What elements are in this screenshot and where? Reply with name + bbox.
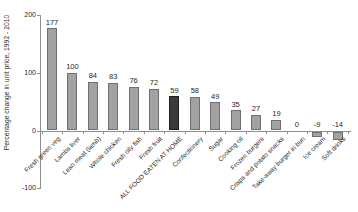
- bar: [47, 28, 57, 130]
- bar: [210, 102, 220, 130]
- bar: [169, 96, 179, 130]
- x-axis-tick: [164, 132, 165, 134]
- x-axis-tick: [144, 132, 145, 134]
- x-axis-tick: [287, 132, 288, 134]
- bar: [108, 83, 118, 131]
- x-axis-line: [40, 131, 351, 132]
- x-axis-tick: [123, 132, 124, 134]
- bar: [251, 115, 261, 131]
- y-axis-tick: [37, 73, 40, 74]
- y-axis-title: Percentage change in unit price, 1992 - …: [2, 0, 11, 173]
- x-axis-tick: [62, 132, 63, 134]
- y-axis-line: [40, 15, 41, 189]
- category-label: Fresh green veg: [23, 135, 61, 173]
- x-axis-tick: [307, 132, 308, 134]
- bar-chart: Percentage change in unit price, 1992 - …: [0, 0, 358, 212]
- bar: [231, 110, 241, 130]
- y-axis-tick: [37, 188, 40, 189]
- x-axis-tick: [266, 132, 267, 134]
- y-axis-tick: [37, 131, 40, 132]
- y-tick-label: 100: [5, 69, 36, 77]
- category-label: Sugar: [207, 135, 224, 152]
- bar: [129, 87, 139, 131]
- y-tick-label: 200: [5, 11, 36, 19]
- y-tick-label: -100: [5, 184, 36, 192]
- bar: [271, 120, 281, 131]
- bar: [67, 73, 77, 131]
- bar-value-label: -14: [323, 120, 353, 129]
- bar: [88, 82, 98, 131]
- x-axis-tick: [103, 132, 104, 134]
- y-axis-tick: [37, 15, 40, 16]
- x-axis-tick: [42, 132, 43, 134]
- bar-value-label: 100: [57, 62, 87, 71]
- x-axis-tick: [83, 132, 84, 134]
- x-axis-tick: [225, 132, 226, 134]
- bar: [149, 89, 159, 131]
- bar: [190, 97, 200, 131]
- x-axis-tick: [348, 132, 349, 134]
- x-axis-tick: [185, 132, 186, 134]
- x-axis-tick: [205, 132, 206, 134]
- x-axis-tick: [327, 132, 328, 134]
- bar-value-label: 177: [37, 18, 67, 27]
- x-axis-tick: [246, 132, 247, 134]
- y-tick-label: 0: [5, 127, 36, 135]
- bar-value-label: 19: [261, 109, 291, 118]
